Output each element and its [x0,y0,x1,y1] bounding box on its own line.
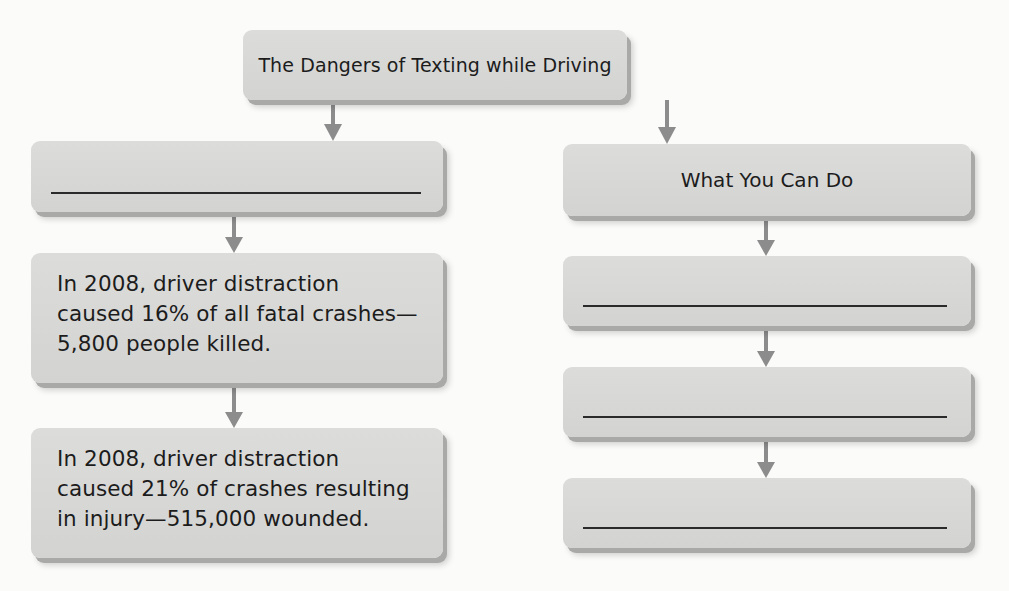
fact-line: caused 16% of all fatal crashes— [57,299,443,329]
fact-line: In 2008, driver distraction [57,444,443,474]
right-box-blank-2 [563,367,971,437]
what-you-can-do-box: What You Can Do [563,144,971,216]
fact-line: caused 21% of crashes resulting [57,474,443,504]
fact-line: 5,800 people killed. [57,329,443,359]
fact-line: in injury—515,000 wounded. [57,504,443,534]
blank-answer-line[interactable] [51,192,421,194]
left-box-injury-crashes: In 2008, driver distraction caused 21% o… [31,428,443,558]
title-text: The Dangers of Texting while Driving [258,54,611,76]
right-box-blank-3 [563,478,971,548]
flowchart-canvas: The Dangers of Texting while Driving In … [0,0,1009,591]
heading-text: What You Can Do [681,168,854,192]
left-box-fatal-crashes: In 2008, driver distraction caused 16% o… [31,253,443,383]
right-box-blank-1 [563,256,971,326]
blank-answer-line[interactable] [583,527,947,529]
fact-line: In 2008, driver distraction [57,269,443,299]
left-box-blank [31,141,443,212]
title-box: The Dangers of Texting while Driving [243,30,627,100]
blank-answer-line[interactable] [583,305,947,307]
blank-answer-line[interactable] [583,416,947,418]
